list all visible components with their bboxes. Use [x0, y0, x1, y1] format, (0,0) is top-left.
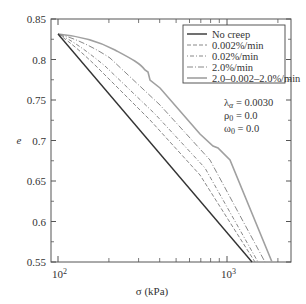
rho-annotation: ρ0 = 0.0 [224, 110, 258, 123]
y-tick-label: 0.8 [32, 54, 46, 66]
chart: 0.85 0.8 0.75 0.7 0.65 0.6 0.55 102 103 … [0, 0, 306, 304]
y-tick-label: 0.6 [32, 216, 46, 228]
y-tick-label: 0.55 [27, 256, 47, 268]
lambda-annotation: λα = 0.0030 [224, 97, 273, 110]
legend-label: 2.0–0.002–2.0%/min [212, 73, 301, 84]
x-tick-labels: 102 103 [52, 267, 236, 280]
x-tick-label: 103 [221, 267, 236, 280]
legend-label: 0.002%/min [212, 40, 264, 51]
parameter-annotation: λα = 0.0030 ρ0 = 0.0 ω0 = 0.0 [224, 97, 273, 136]
y-tick-label: 0.85 [27, 13, 47, 25]
y-tick-labels: 0.85 0.8 0.75 0.7 0.65 0.6 0.55 [27, 13, 47, 268]
legend-label: No creep [212, 29, 250, 40]
x-tick-label: 102 [52, 267, 67, 280]
legend: No creep 0.002%/min 0.02%/min 2.0%/min 2… [183, 25, 301, 84]
y-tick-label: 0.65 [27, 175, 47, 187]
y-tick-label: 0.75 [27, 94, 47, 106]
y-tick-label: 0.7 [32, 135, 46, 147]
x-axis-label: σ (kPa) [136, 285, 169, 298]
y-axis-label: e [17, 134, 22, 146]
legend-label: 0.02%/min [212, 51, 259, 62]
legend-label: 2.0%/min [212, 62, 254, 73]
omega-annotation: ω0 = 0.0 [224, 123, 259, 136]
